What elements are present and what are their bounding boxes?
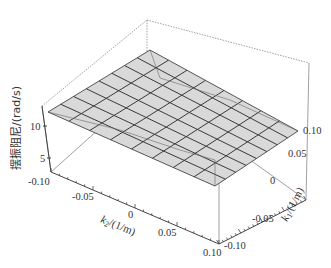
z-tick-10: 10 (30, 121, 41, 132)
x-tick-2: 0 (128, 209, 133, 220)
x-tick-3: 0.05 (158, 227, 176, 238)
y-tick-4: 0.10 (303, 125, 321, 136)
x-axis: -0.10 -0.05 0 0.05 0.10 k2/(1/m) (28, 176, 221, 258)
y-tick-2: 0 (270, 175, 275, 186)
surface-plot: 10 5 摆振阻尼/(rad/s) -0.10 -0.05 0 0.05 0.1… (0, 0, 331, 268)
y-tick-3: 0.05 (288, 148, 306, 159)
y-tick-1: -0.05 (252, 213, 274, 224)
x-tick-4: 0.10 (203, 247, 221, 258)
z-axis: 10 5 摆振阻尼/(rad/s) (9, 86, 51, 172)
z-tick-5: 5 (40, 153, 45, 164)
x-tick-1: -0.05 (72, 191, 94, 202)
surface (48, 50, 298, 186)
z-axis-label: 摆振阻尼/(rad/s) (9, 86, 23, 170)
x-tick-0: -0.10 (28, 176, 50, 187)
y-axis-label: k1/(1/m) (278, 185, 308, 224)
y-tick-0: -0.10 (224, 240, 246, 251)
